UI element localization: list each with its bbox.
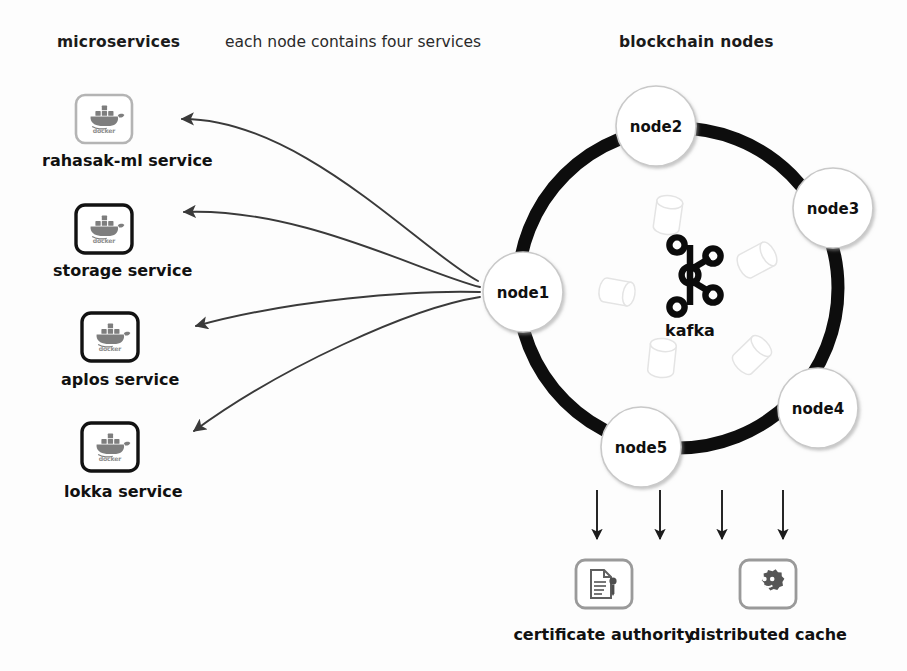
arrow-to-aplos [196, 292, 480, 326]
bottom-service-distributed-cache[interactable]: distributed cache [689, 560, 847, 644]
cache-gear-eye-left [762, 577, 767, 582]
node-label: node2 [630, 118, 682, 136]
heading-blockchain-nodes: blockchain nodes [619, 33, 774, 51]
arrow-to-rahasak-ml [182, 119, 478, 281]
node-label: node3 [807, 200, 859, 218]
arrow-to-storage [184, 212, 480, 287]
cache-gear-eye-right [770, 577, 775, 582]
microservice-label: aplos service [61, 370, 179, 389]
kafka-label: kafka [665, 321, 715, 340]
service-arrows [182, 119, 480, 431]
bottom-service-label: distributed cache [689, 625, 847, 644]
docker-caption: docker [99, 455, 122, 462]
node-label: node4 [792, 400, 844, 418]
ledger-cylinder [734, 239, 781, 280]
ledger-cylinder [729, 332, 775, 378]
node-label: node5 [615, 439, 667, 457]
blockchain-node-node5[interactable]: node5 [601, 407, 681, 487]
microservice-lokka[interactable]: docker lokka service [64, 423, 183, 501]
diagram-canvas: microservices each node contains four se… [0, 0, 907, 671]
blockchain-node-list: node1 node2 node3 node4 node5 [483, 86, 873, 487]
blockchain-node-node1[interactable]: node1 [483, 252, 563, 332]
heading-each-node: each node contains four services [225, 33, 481, 51]
microservice-label: rahasak-ml service [42, 151, 213, 170]
ledger-cylinder [652, 194, 683, 236]
ledger-cylinder [597, 277, 637, 307]
node-label: node1 [497, 284, 549, 302]
blockchain-node-node4[interactable]: node4 [778, 368, 858, 448]
microservice-label: lokka service [64, 482, 183, 501]
heading-microservices: microservices [57, 33, 180, 51]
microservice-aplos[interactable]: docker aplos service [61, 313, 179, 389]
ledger-cylinder [647, 337, 677, 379]
docker-caption: docker [99, 345, 122, 352]
docker-caption: docker [93, 237, 116, 244]
bottom-service-label: certificate authority [513, 625, 695, 644]
kafka-cluster[interactable]: kafka [665, 237, 721, 340]
microservice-rahasak-ml[interactable]: docker rahasak-ml service [42, 95, 213, 170]
blockchain-node-node2[interactable]: node2 [616, 86, 696, 166]
bottom-service-certificate-authority[interactable]: certificate authority [513, 560, 695, 644]
microservice-storage[interactable]: docker storage service [53, 205, 192, 280]
bottom-service-list: certificate authority distributed cache [513, 560, 847, 644]
microservice-list: docker rahasak-ml service docker storage… [42, 95, 213, 501]
docker-caption: docker [93, 127, 116, 134]
arrow-to-lokka [194, 297, 480, 431]
microservice-label: storage service [53, 261, 192, 280]
kafka-logo-nodes [669, 237, 720, 314]
architecture-diagram: microservices each node contains four se… [0, 0, 907, 671]
blockchain-node-node3[interactable]: node3 [793, 168, 873, 248]
bottom-arrows [597, 490, 783, 539]
